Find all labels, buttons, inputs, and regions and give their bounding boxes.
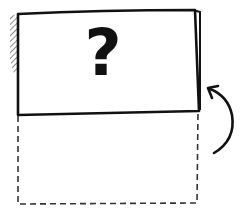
dashed-outline-original-position bbox=[18, 112, 198, 204]
flip-card-diagram: ? bbox=[0, 0, 248, 212]
flip-arrow-icon bbox=[208, 86, 233, 153]
question-mark-icon: ? bbox=[78, 18, 128, 88]
